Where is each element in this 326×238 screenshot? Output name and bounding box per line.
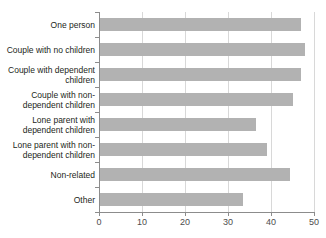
bar	[100, 93, 293, 106]
gridline-20	[185, 12, 186, 212]
category-label: Lone parent with non- dependent children	[0, 140, 95, 160]
y-tick	[95, 162, 99, 163]
x-tick-40	[271, 212, 272, 216]
category-label: Other	[0, 195, 95, 205]
bar-chart: One personCouple with no childrenCouple …	[0, 0, 326, 238]
y-tick	[95, 87, 99, 88]
x-tick-0	[99, 212, 100, 216]
bar	[100, 43, 305, 56]
y-tick	[95, 37, 99, 38]
category-label: Couple with non- dependent children	[0, 90, 95, 110]
x-tick-20	[185, 212, 186, 216]
x-tick-label-10: 10	[137, 217, 147, 227]
bar	[100, 18, 301, 31]
x-tick-label-30: 30	[223, 217, 233, 227]
bar	[100, 68, 301, 81]
y-tick	[95, 112, 99, 113]
x-tick-label-50: 50	[309, 217, 319, 227]
y-tick	[95, 62, 99, 63]
x-tick-label-0: 0	[96, 217, 101, 227]
category-label: Couple with dependent children	[0, 65, 95, 85]
x-tick-30	[228, 212, 229, 216]
y-tick	[95, 12, 99, 13]
bar	[100, 118, 256, 131]
category-label: Non-related	[0, 170, 95, 180]
gridline-50	[314, 12, 315, 212]
bar	[100, 143, 267, 156]
y-axis-line	[99, 12, 100, 212]
bar	[100, 168, 290, 181]
y-tick	[95, 187, 99, 188]
x-axis-line	[99, 212, 314, 213]
category-axis-labels: One personCouple with no childrenCouple …	[0, 12, 95, 212]
y-tick	[95, 137, 99, 138]
gridline-40	[271, 12, 272, 212]
x-tick-label-40: 40	[266, 217, 276, 227]
bar	[100, 193, 243, 206]
x-tick-10	[142, 212, 143, 216]
gridline-30	[228, 12, 229, 212]
plot-area: 01020304050	[99, 12, 314, 212]
x-tick-50	[314, 212, 315, 216]
category-label: One person	[0, 20, 95, 30]
x-tick-label-20: 20	[180, 217, 190, 227]
category-label: Lone parent with dependent children	[0, 115, 95, 135]
category-label: Couple with no children	[0, 45, 95, 55]
gridline-10	[142, 12, 143, 212]
